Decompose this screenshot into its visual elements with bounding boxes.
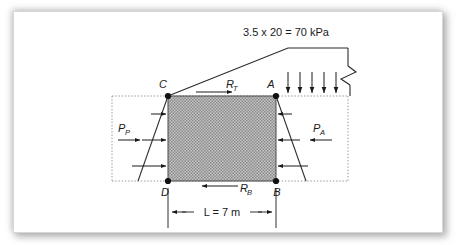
- node-D: [165, 178, 171, 184]
- svg-text:P: P: [125, 128, 130, 137]
- passive-wedge-failure-plane: [138, 96, 168, 181]
- surcharge-load-arrows: [288, 72, 336, 93]
- svg-text:A: A: [319, 128, 325, 137]
- force-label-RT: R T: [226, 78, 239, 93]
- ground-break-symbol: [341, 48, 356, 96]
- point-label-B: B: [273, 186, 280, 198]
- active-pressure-arrows: [278, 114, 332, 166]
- dimension-label: L = 7 m: [204, 206, 241, 218]
- force-label-PA: P A: [313, 122, 325, 137]
- point-label-A: A: [266, 78, 274, 90]
- svg-text:B: B: [247, 188, 252, 197]
- diagram-canvas: 3.5 x 20 = 70 kPa: [0, 0, 456, 245]
- ground-surface-profile: [168, 48, 348, 96]
- node-C: [165, 93, 171, 99]
- node-B: [273, 178, 279, 184]
- point-label-C: C: [159, 78, 167, 90]
- surcharge-label: 3.5 x 20 = 70 kPa: [243, 26, 330, 38]
- soil-block-fill: [168, 96, 276, 181]
- force-label-RB: R B: [240, 182, 252, 197]
- figure-root: 3.5 x 20 = 70 kPa: [0, 0, 456, 245]
- force-label-PP: P P: [118, 122, 130, 137]
- node-A: [273, 93, 279, 99]
- svg-text:T: T: [233, 84, 239, 93]
- active-wedge-failure-plane: [276, 96, 306, 181]
